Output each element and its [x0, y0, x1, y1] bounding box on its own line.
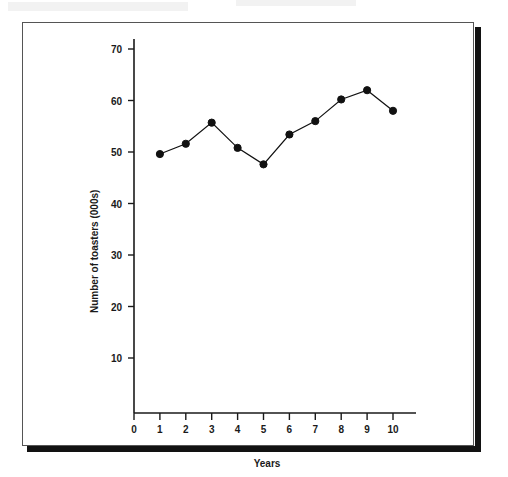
x-tick-label-0: 0 — [131, 424, 137, 435]
x-tick-label-9: 9 — [364, 424, 370, 435]
x-tick-label-1: 1 — [157, 424, 163, 435]
y-axis-title: Number of toasters (000s) — [89, 190, 100, 313]
y-tick-label-20: 20 — [100, 301, 122, 312]
series-polyline — [160, 90, 393, 164]
x-tick-label-3: 3 — [209, 424, 215, 435]
x-tick-label-2: 2 — [183, 424, 189, 435]
data-point-year-2 — [182, 140, 189, 147]
x-tick-label-6: 6 — [287, 424, 293, 435]
data-point-year-7 — [312, 118, 319, 125]
y-tick-label-10: 10 — [100, 353, 122, 364]
y-tick-label-40: 40 — [100, 198, 122, 209]
x-tick-label-4: 4 — [235, 424, 241, 435]
scan-artifact-top-right — [236, 0, 356, 6]
x-tick-label-5: 5 — [261, 424, 267, 435]
chart-series-markers — [156, 87, 396, 168]
x-tick-label-7: 7 — [313, 424, 319, 435]
data-point-year-5 — [260, 161, 267, 168]
x-tick-label-8: 8 — [338, 424, 344, 435]
page-canvas: 10203040506070 012345678910 Number of to… — [0, 0, 508, 477]
data-point-year-3 — [208, 119, 215, 126]
data-point-year-10 — [389, 107, 396, 114]
figure-frame: 10203040506070 012345678910 Number of to… — [22, 22, 474, 446]
data-point-year-1 — [156, 150, 163, 157]
chart-series-line — [160, 90, 393, 164]
y-tick-label-30: 30 — [100, 250, 122, 261]
chart-ticks — [128, 49, 393, 420]
x-axis-title: Years — [254, 458, 281, 469]
scan-artifact-top-left — [8, 2, 188, 11]
y-tick-label-70: 70 — [100, 44, 122, 55]
x-tick-label-10: 10 — [387, 424, 398, 435]
y-tick-label-60: 60 — [100, 95, 122, 106]
data-point-year-4 — [234, 144, 241, 151]
data-point-year-8 — [338, 96, 345, 103]
y-tick-label-50: 50 — [100, 147, 122, 158]
plot-area: 10203040506070 012345678910 Number of to… — [23, 23, 475, 447]
data-point-year-9 — [364, 87, 371, 94]
frame-shadow-right — [475, 27, 481, 451]
data-point-year-6 — [286, 131, 293, 138]
